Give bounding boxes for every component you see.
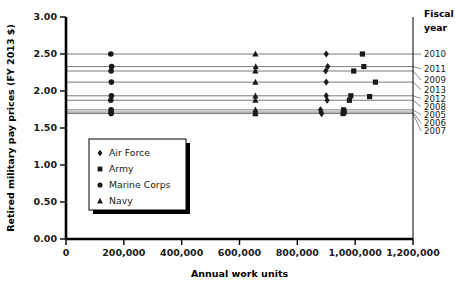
fiscal-year-label-2010: 2010	[424, 49, 446, 59]
chart-container: 201020112009201320122008200520062007Fisc…	[0, 0, 455, 285]
series-air-force	[318, 50, 330, 117]
x-axis-ticks: 0200,000400,000600,000800,0001,000,0001,…	[63, 239, 440, 258]
legend-label-air-force: Air Force	[109, 147, 150, 158]
legend-label-marine-corps: Marine Corps	[109, 179, 171, 190]
x-tick-label-5: 1,000,000	[328, 247, 382, 258]
x-tick-label-1: 200,000	[102, 247, 146, 258]
point-air-force-2010	[324, 50, 329, 57]
y-tick-label-6: 3.00	[34, 11, 58, 22]
fiscal-year-header-line1: Fiscal	[424, 8, 454, 19]
series-navy	[252, 51, 258, 117]
y-axis-title: Retired military pay prices (FY 2013 $)	[5, 24, 16, 232]
point-army-2009	[351, 68, 356, 73]
y-axis-ticks: 0.000.501.001.502.002.503.00	[34, 11, 66, 244]
legend-label-navy: Navy	[109, 195, 133, 206]
x-tick-label-0: 0	[63, 247, 70, 258]
point-army-2007	[340, 111, 345, 116]
series-marine-corps	[108, 51, 114, 116]
chart-legend: Air ForceArmyMarine CorpsNavy	[89, 139, 190, 214]
fiscal-year-leader-2011	[413, 67, 421, 69]
x-tick-label-3: 600,000	[218, 247, 262, 258]
point-army-2012	[348, 93, 353, 98]
fiscal-year-leader-2008	[413, 100, 421, 106]
fiscal-year-leader-2009	[413, 71, 421, 80]
legend-marker-square-icon	[98, 167, 103, 172]
point-marine-corps-2013	[109, 79, 115, 85]
data-points	[108, 50, 378, 117]
x-tick-label-2: 400,000	[160, 247, 204, 258]
point-marine-corps-2007	[108, 111, 114, 117]
fiscal-year-header: Fiscalyear	[424, 8, 454, 33]
scatter-chart: 201020112009201320122008200520062007Fisc…	[0, 0, 455, 285]
fiscal-year-label-2009: 2009	[424, 75, 446, 85]
x-tick-label-4: 800,000	[276, 247, 320, 258]
point-army-2013	[373, 80, 378, 85]
fiscal-year-leader-2012	[413, 96, 421, 99]
fiscal-year-label-2011: 2011	[424, 64, 446, 74]
legend-label-army: Army	[109, 163, 134, 174]
point-army-2011	[361, 64, 366, 69]
y-tick-label-1: 0.50	[34, 196, 58, 207]
fiscal-year-leader-2007	[413, 114, 421, 131]
y-tick-label-0: 0.00	[34, 233, 58, 244]
fiscal-year-leader-2013	[413, 82, 421, 89]
x-tick-label-6: 1,200,000	[386, 247, 440, 258]
fiscal-year-header-line2: year	[424, 22, 447, 33]
y-tick-label-4: 2.00	[34, 85, 58, 96]
point-marine-corps-2009	[108, 68, 114, 74]
fiscal-year-label-2007: 2007	[424, 126, 446, 136]
y-tick-label-5: 2.50	[34, 48, 58, 59]
y-tick-label-2: 1.00	[34, 159, 58, 170]
point-army-2012b	[367, 94, 372, 99]
legend-item-marine-corps: Marine Corps	[97, 179, 170, 190]
legend-marker-circle-icon	[97, 182, 102, 187]
fiscal-year-lines: 201020112009201320122008200520062007	[66, 49, 446, 136]
point-marine-corps-2008	[108, 97, 114, 103]
point-army-2010	[360, 51, 365, 56]
point-marine-corps-2010	[108, 51, 114, 57]
x-axis-title: Annual work units	[191, 268, 289, 279]
series-army	[340, 51, 378, 116]
y-tick-label-3: 1.50	[34, 122, 58, 133]
point-army-2008	[347, 98, 352, 103]
point-air-force-2013	[324, 79, 329, 86]
